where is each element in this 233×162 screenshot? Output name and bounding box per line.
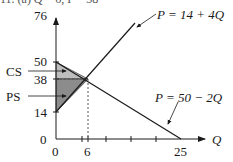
- demand-equation-label: P = 50 − 2Q: [155, 91, 222, 104]
- header-fragment: 11. (a) Q = 6, P = 38: [0, 0, 98, 7]
- y-label-38: 38: [34, 73, 47, 86]
- y-label-0: 0: [40, 133, 47, 146]
- x-label-6: 6: [84, 145, 91, 158]
- demand-label-arrow: [168, 102, 178, 124]
- y-label-50: 50: [34, 55, 47, 68]
- supply-curve: [56, 23, 135, 112]
- ps-label: PS: [6, 90, 20, 103]
- y-label-76: 76: [34, 9, 47, 22]
- x-axis-title: Q: [212, 133, 221, 146]
- y-label-14: 14: [34, 106, 47, 119]
- supply-equation-label: P = 14 + 4Q: [157, 8, 224, 21]
- cs-label: CS: [6, 65, 22, 78]
- x-label-25: 25: [174, 145, 187, 158]
- surplus-chart: 11. (a) Q = 6, P = 38: [0, 0, 233, 162]
- supply-label-arrow: [137, 14, 156, 27]
- x-label-0: 0: [52, 145, 59, 158]
